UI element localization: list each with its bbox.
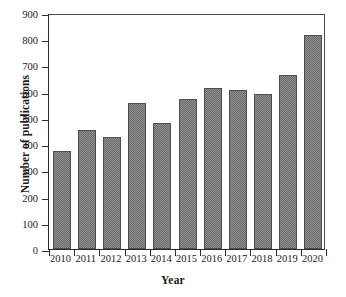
y-axis-tick: [42, 120, 49, 121]
plot-area: [48, 14, 325, 250]
bar: [128, 103, 146, 249]
bar: [53, 151, 71, 249]
bar: [304, 35, 322, 249]
bar: [103, 137, 121, 249]
x-axis-tick-label: 2019: [277, 253, 298, 264]
y-axis-tick-label: 600: [0, 87, 38, 98]
y-axis-tick-label: 200: [0, 192, 38, 203]
y-axis-tick: [42, 172, 49, 173]
x-axis-tick-label: 2013: [126, 253, 147, 264]
y-axis-tick: [42, 199, 49, 200]
y-axis-tick-label: 900: [0, 9, 38, 20]
y-axis-tick: [42, 225, 49, 226]
x-axis-tick-label: 2017: [226, 253, 247, 264]
y-axis-tick: [42, 251, 49, 252]
bar: [78, 130, 96, 249]
x-axis-tick-label: 2020: [302, 253, 323, 264]
bar-chart: Number of publications Year 010020030040…: [0, 0, 346, 297]
bar: [153, 123, 171, 249]
y-axis-tick-label: 100: [0, 218, 38, 229]
x-axis-tick: [326, 249, 327, 256]
y-axis-tick-label: 300: [0, 166, 38, 177]
y-axis-tick: [42, 67, 49, 68]
bar: [204, 88, 222, 249]
y-axis-tick-label: 800: [0, 35, 38, 46]
x-axis-tick-label: 2012: [100, 253, 121, 264]
y-axis-tick-label: 0: [0, 245, 38, 256]
x-axis-tick-label: 2014: [151, 253, 172, 264]
bar: [179, 99, 197, 249]
x-axis-title: Year: [0, 274, 346, 286]
y-axis-tick-label: 500: [0, 113, 38, 124]
bar: [229, 90, 247, 249]
y-axis-tick: [42, 41, 49, 42]
y-axis-tick: [42, 94, 49, 95]
y-axis-tick: [42, 146, 49, 147]
y-axis-tick: [42, 15, 49, 16]
x-axis-tick-label: 2010: [50, 253, 71, 264]
bar: [279, 75, 297, 249]
x-axis-tick-label: 2015: [176, 253, 197, 264]
x-axis-tick-label: 2011: [75, 253, 96, 264]
y-axis-tick-label: 400: [0, 140, 38, 151]
x-axis-tick-label: 2018: [252, 253, 273, 264]
y-axis-tick-label: 700: [0, 61, 38, 72]
x-axis-tick-label: 2016: [201, 253, 222, 264]
bar: [254, 94, 272, 249]
